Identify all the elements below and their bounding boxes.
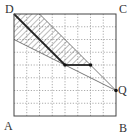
label-B: B: [119, 122, 127, 134]
label-C: C: [119, 3, 127, 15]
label-D: D: [5, 3, 14, 15]
geometry-diagram: [0, 0, 133, 135]
label-Q: Q: [118, 84, 127, 96]
label-A: A: [4, 120, 13, 132]
